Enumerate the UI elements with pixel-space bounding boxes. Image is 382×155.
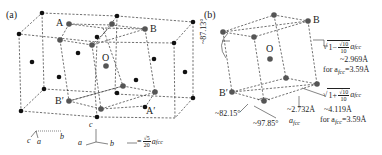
axis2-b-label: b <box>110 140 114 148</box>
distance-small-unit: afcc <box>289 117 300 126</box>
angle-top: ~87.13° <box>200 18 208 44</box>
panel-a-label: (a) <box>6 10 17 20</box>
scale-fraction: √5 20 <box>143 135 151 148</box>
sqrt-body: 1− √1010 <box>327 40 350 54</box>
axis-b-label: b <box>60 133 64 141</box>
lower-unit-sub: fcc <box>354 92 361 98</box>
site-b-label-b: B <box>313 15 320 25</box>
angle-left: ~82.15° <box>215 110 241 118</box>
afcc-sub: fcc <box>293 120 300 126</box>
scale-bar-legend: = √5 20 afcc <box>137 135 163 148</box>
upper-distance-value: ~2.969Å <box>340 56 368 64</box>
upper-cond-suffix: =3.59Å <box>345 65 369 74</box>
site-a-prime-label: A′ <box>146 106 155 116</box>
site-b-label: B <box>150 24 157 34</box>
lower-prefix: 1+ <box>328 92 337 100</box>
distance-small: ~2.732Å <box>287 106 315 114</box>
site-b-prime-label: B′ <box>55 96 64 106</box>
upper-unit-sub: fcc <box>354 44 361 50</box>
sqrt-body-2: 1+ √1010 <box>327 88 350 102</box>
upper-condition: for afcc=3.59Å <box>323 66 369 75</box>
scale-eq: = <box>137 138 142 146</box>
upper-cond-sub: fcc <box>338 69 345 75</box>
site-o-label-b: O <box>266 44 273 54</box>
axis-c-label: c <box>27 137 31 145</box>
scale-unit-sub: fcc <box>156 139 163 145</box>
site-a-label: A <box>56 18 63 28</box>
upper-frac: √1010 <box>338 41 349 54</box>
lower-distance-formula: √ 1+ √1010 afcc <box>323 88 361 102</box>
lower-frac: √1010 <box>338 89 349 102</box>
upper-den: 10 <box>341 48 347 54</box>
angle-bottom: ~97.85° <box>253 120 279 128</box>
axis2-a-label: a <box>78 139 82 147</box>
lower-condition: for afcc=3.59Å <box>320 116 366 125</box>
upper-distance-formula: √ 1− √1010 afcc <box>323 40 361 54</box>
lower-num: √10 <box>338 89 349 96</box>
lower-cond-suffix: =3.59Å <box>342 115 366 124</box>
panel-a-atoms <box>17 11 196 120</box>
upper-num: √10 <box>338 41 349 48</box>
lower-cond-prefix: for a <box>320 115 335 124</box>
lower-den: 10 <box>341 96 347 102</box>
lower-distance-value: ~4.119Å <box>324 106 352 114</box>
axis-a-label: a <box>37 138 41 146</box>
site-b-prime-label-b: B′ <box>219 88 228 98</box>
scale-den: 20 <box>144 142 150 148</box>
lower-cond-sub: fcc <box>335 119 342 125</box>
scale-num: √5 <box>143 135 151 142</box>
upper-cond-prefix: for a <box>323 65 338 74</box>
axis2-c-label: c <box>89 121 93 129</box>
panel-a-axes <box>31 129 137 145</box>
upper-prefix: 1− <box>328 44 337 52</box>
site-o-label: O <box>102 53 109 63</box>
